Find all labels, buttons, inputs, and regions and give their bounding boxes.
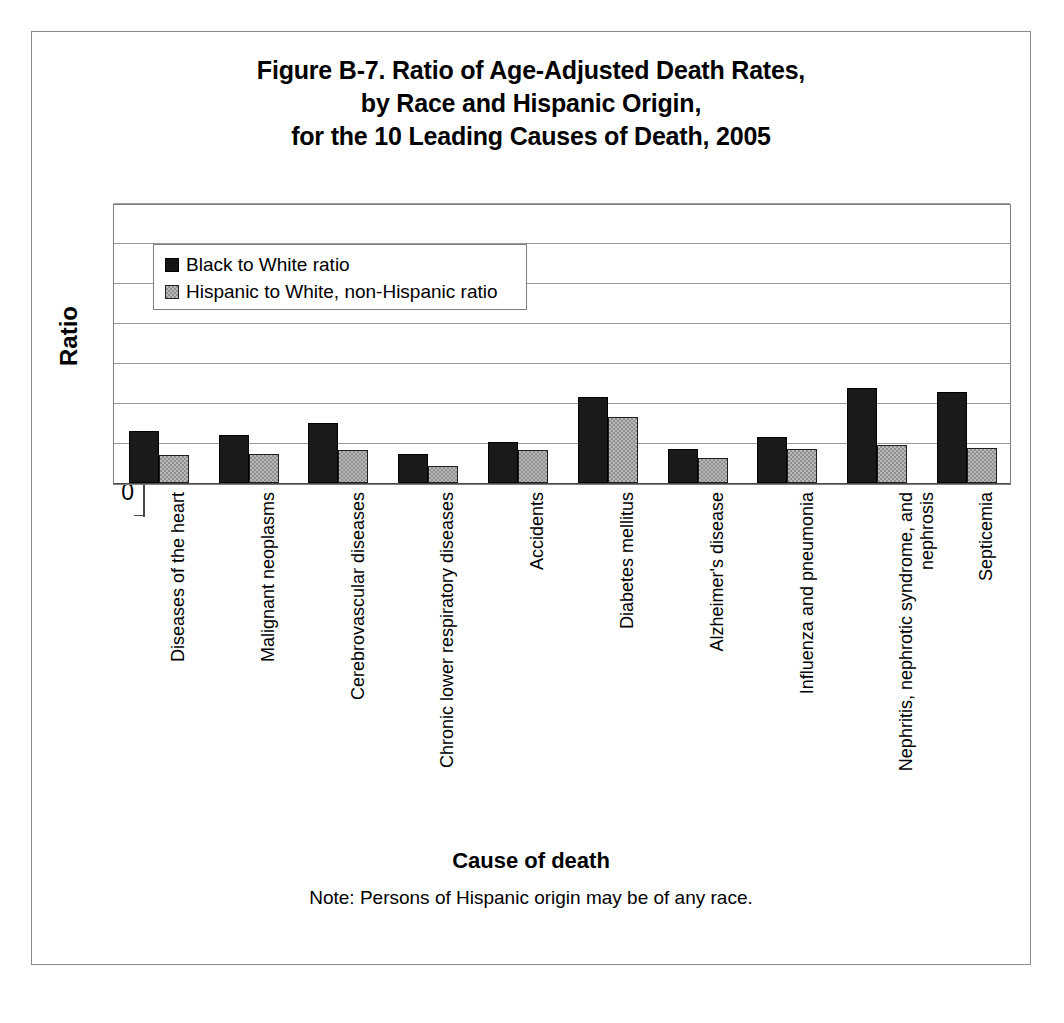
bar [757, 437, 787, 483]
bar-group [653, 203, 743, 483]
bar [578, 397, 608, 483]
bar [787, 449, 817, 483]
x-axis-label: Cerebrovascular diseases [348, 492, 388, 812]
bar [219, 435, 249, 483]
x-axis-label: Diseases of the heart [168, 492, 208, 812]
bar [937, 392, 967, 483]
chart-title-line-3: for the 10 Leading Causes of Death, 2005 [32, 120, 1030, 153]
chart-title: Figure B-7. Ratio of Age-Adjusted Death … [32, 54, 1030, 153]
bar [847, 388, 877, 483]
bar [698, 458, 728, 483]
x-axis-label: Chronic lower respiratory diseases [437, 492, 477, 812]
bar [338, 450, 368, 483]
bar-group [832, 203, 922, 483]
bar [249, 454, 279, 483]
x-axis-label: Diabetes mellitus [617, 492, 657, 812]
bar [129, 431, 159, 483]
bar [159, 455, 189, 483]
chart-note: Note: Persons of Hispanic origin may be … [32, 887, 1030, 909]
bar [398, 454, 428, 483]
bar [518, 450, 548, 483]
legend-item[interactable]: Hispanic to White, non-Hispanic ratio [165, 279, 526, 304]
x-axis-baseline [114, 483, 1010, 484]
chart-legend: Black to White ratioHispanic to White, n… [153, 244, 527, 310]
legend-item-label: Black to White ratio [186, 254, 350, 275]
bar-group [922, 203, 1012, 483]
x-axis-label: Accidents [527, 492, 567, 812]
bar [488, 442, 518, 483]
figure-frame: Figure B-7. Ratio of Age-Adjusted Death … [31, 31, 1031, 965]
bar [428, 466, 458, 483]
x-axis-label: Nephritis, nephrotic syndrome, andnephro… [896, 492, 936, 812]
legend-item-label: Hispanic to White, non-Hispanic ratio [186, 281, 498, 302]
chart-title-line-1: Figure B-7. Ratio of Age-Adjusted Death … [32, 54, 1030, 87]
black-swatch [165, 258, 179, 272]
x-axis-category-labels: Diseases of the heartMalignant neoplasms… [113, 492, 1011, 812]
bar [308, 423, 338, 483]
bar [877, 445, 907, 483]
legend-item[interactable]: Black to White ratio [165, 252, 526, 277]
x-axis-label: Malignant neoplasms [258, 492, 298, 812]
x-axis-label: Influenza and pneumonia [797, 492, 837, 812]
bar-group [743, 203, 833, 483]
bar-group [563, 203, 653, 483]
bar [668, 449, 698, 483]
gray-swatch [165, 285, 179, 299]
x-axis-label: Alzheimer's disease [707, 492, 747, 812]
x-axis-label: Septicemia [976, 492, 1016, 812]
chart-title-line-2: by Race and Hispanic Origin, [32, 87, 1030, 120]
bar [967, 448, 997, 483]
bar [608, 417, 638, 483]
x-axis-title: Cause of death [32, 848, 1030, 874]
